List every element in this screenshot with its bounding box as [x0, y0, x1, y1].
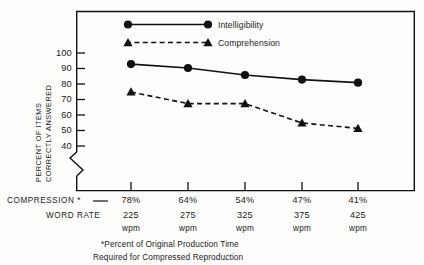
- compression-value-3: 47%: [279, 195, 325, 205]
- compression-row-label: COMPRESSION *: [7, 196, 81, 205]
- y-tick-label-80: 80: [50, 79, 72, 89]
- legend-label-intelligibility: Intelligibility: [218, 20, 263, 30]
- word-rate-row-label: WORD RATE: [46, 211, 100, 220]
- footnote-line-1: *Percent of Original Production Time: [101, 239, 239, 249]
- y-axis-break-icon: [70, 152, 83, 176]
- series-comprehension: [126, 87, 362, 132]
- chart-figure: PERCENT OF ITEMS CORRECTLY ANSWERED 100 …: [0, 0, 424, 265]
- legend-glyph-comprehension: [123, 38, 212, 46]
- wpm-unit-1: wpm: [165, 224, 211, 233]
- y-tick-label-50: 50: [50, 125, 72, 135]
- series-intelligibility: [127, 60, 362, 87]
- word-rate-value-3: 375: [279, 210, 325, 220]
- word-rate-value-2: 325: [222, 210, 268, 220]
- legend-glyph-intelligibility: [124, 20, 212, 28]
- wpm-unit-2: wpm: [222, 224, 268, 233]
- footnote-line-2: Required for Compressed Reproduction: [93, 252, 243, 262]
- wpm-unit-0: wpm: [108, 224, 154, 233]
- wpm-unit-3: wpm: [279, 224, 325, 233]
- compression-value-1: 64%: [165, 195, 211, 205]
- y-tick-label-40: 40: [50, 141, 72, 151]
- compression-value-0: 78%: [108, 195, 154, 205]
- legend-label-comprehension: Comprehension: [218, 38, 280, 48]
- y-axis-title-line1: PERCENT OF ITEMS: [34, 85, 44, 182]
- y-tick-label-70: 70: [50, 94, 72, 104]
- compression-value-2: 54%: [222, 195, 268, 205]
- word-rate-value-1: 275: [165, 210, 211, 220]
- y-tick-label-90: 90: [50, 63, 72, 73]
- y-tick-label-100: 100: [50, 48, 72, 58]
- y-tick-label-60: 60: [50, 110, 72, 120]
- word-rate-value-0: 225: [108, 210, 154, 220]
- y-tick-marks: [77, 53, 85, 146]
- wpm-unit-4: wpm: [335, 224, 381, 233]
- compression-value-4: 41%: [335, 195, 381, 205]
- word-rate-value-4: 425: [335, 210, 381, 220]
- x-tick-marks: [131, 182, 358, 191]
